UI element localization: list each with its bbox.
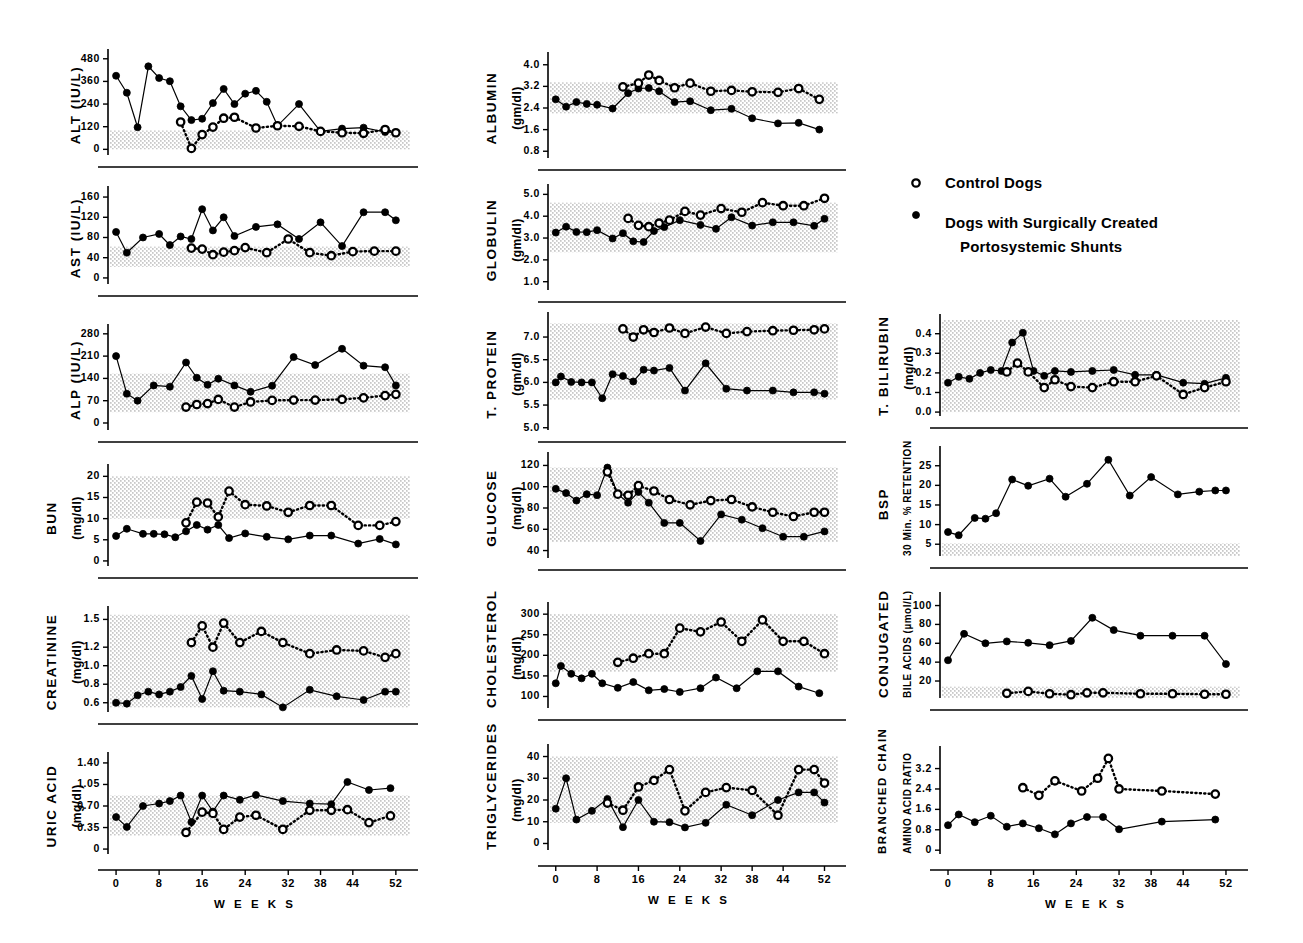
legend-markers [0, 0, 1303, 943]
figure-canvas: 0120240360480ALT (IU/L)04080120160AST (I… [0, 0, 1303, 943]
legend-label-2: Portosystemic Shunts [960, 238, 1122, 255]
legend-label-1: Dogs with Surgically Created [945, 214, 1158, 231]
legend: Control DogsDogs with Surgically Created… [0, 0, 1303, 943]
legend-label-0: Control Dogs [945, 174, 1042, 191]
